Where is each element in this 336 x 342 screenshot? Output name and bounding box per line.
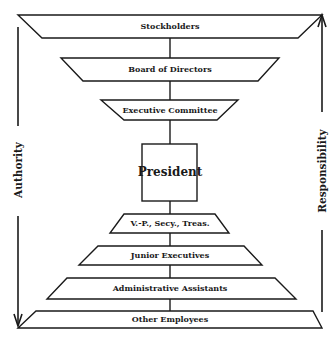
level-executive-committee: Executive Committee xyxy=(101,100,238,120)
level-officers: V.-P., Secy., Treas. xyxy=(110,214,229,233)
president-label: President xyxy=(138,165,203,179)
board-label: Board of Directors xyxy=(128,64,212,74)
junior-executives-label: Junior Executives xyxy=(130,250,210,260)
level-administrative-assistants: Administrative Assistants xyxy=(47,278,296,299)
responsibility-axis: Responsibility xyxy=(316,15,328,312)
officers-label: V.-P., Secy., Treas. xyxy=(130,218,210,228)
level-junior-executives: Junior Executives xyxy=(79,246,262,265)
responsibility-label: Responsibility xyxy=(316,128,328,212)
level-board-of-directors: Board of Directors xyxy=(61,58,279,81)
executive-committee-label: Executive Committee xyxy=(122,105,217,115)
level-other-employees: Other Employees xyxy=(18,311,322,328)
level-stockholders: Stockholders xyxy=(18,15,322,38)
organization-authority-responsibility-diagram: Stockholders Board of Directors Executiv… xyxy=(0,0,336,342)
authority-label: Authority xyxy=(12,141,24,199)
administrative-assistants-label: Administrative Assistants xyxy=(112,283,228,293)
stockholders-label: Stockholders xyxy=(141,21,200,31)
other-employees-label: Other Employees xyxy=(132,314,209,324)
level-president: President xyxy=(138,144,203,201)
authority-axis: Authority xyxy=(12,27,24,326)
